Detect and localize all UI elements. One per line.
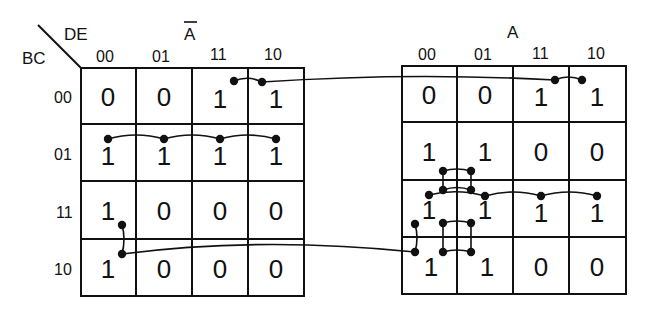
cell: 0	[213, 196, 227, 226]
cell: 0	[269, 254, 283, 284]
row-header: 00	[54, 89, 72, 106]
right-map-column-headers: 00 01 11 10	[418, 45, 605, 63]
cell: 0	[590, 137, 604, 167]
cell: 1	[590, 198, 604, 228]
group-dot	[230, 77, 238, 85]
cell: 1	[269, 84, 283, 114]
group-dot	[467, 167, 475, 175]
cell: 0	[157, 254, 171, 284]
group-dot	[481, 192, 489, 200]
group-dot	[593, 192, 601, 200]
cell: 1	[534, 198, 548, 228]
column-header: 10	[587, 45, 605, 62]
column-header: 00	[96, 48, 114, 65]
group-dot	[578, 76, 586, 84]
group-dot	[272, 135, 280, 143]
cell: 1	[101, 196, 115, 226]
cell: 0	[422, 80, 436, 110]
cell: 1	[213, 84, 227, 114]
group-dot	[439, 167, 447, 175]
group-dot	[411, 248, 419, 256]
group-dot	[118, 250, 126, 258]
connector-line	[262, 76, 555, 82]
group-dot	[411, 220, 419, 228]
cell: 1	[424, 252, 438, 282]
row-header: 01	[54, 146, 72, 163]
map-title-not-a: A	[184, 25, 196, 44]
cell: 0	[590, 252, 604, 282]
cell: 0	[534, 252, 548, 282]
row-variable-label: BC	[22, 49, 46, 68]
left-map-row-headers: 00 01 11 10	[54, 89, 73, 278]
cell: 0	[269, 196, 283, 226]
column-header: 11	[210, 46, 227, 63]
left-map-column-headers: 00 01 11 10	[96, 46, 282, 65]
row-header: 11	[56, 204, 73, 221]
karnaugh-map-diagram: DE BC A A 00 01 11 10 00 01 11 10 0 0 1 …	[0, 0, 653, 312]
cell: 1	[157, 141, 171, 171]
row-header: 10	[54, 261, 72, 278]
cell: 0	[534, 137, 548, 167]
group-dot	[216, 135, 224, 143]
cell: 1	[101, 141, 115, 171]
cell: 0	[157, 82, 171, 112]
group-dot	[425, 191, 433, 199]
group-dot	[104, 135, 112, 143]
group-dot	[551, 76, 559, 84]
column-header: 00	[418, 46, 436, 63]
cell: 1	[534, 82, 548, 112]
group-dot	[258, 78, 266, 86]
connector-line	[122, 244, 415, 254]
group-dot	[439, 186, 447, 194]
cell: 1	[101, 254, 115, 284]
cell: 1	[422, 195, 436, 225]
group-dot	[439, 219, 447, 227]
group-dot	[467, 248, 475, 256]
column-header: 11	[532, 45, 549, 62]
cell: 0	[101, 82, 115, 112]
group-dot	[537, 192, 545, 200]
grouping-connectors	[108, 76, 597, 254]
cell: 0	[478, 80, 492, 110]
column-header: 10	[264, 46, 282, 63]
cell: 1	[269, 141, 283, 171]
cell: 1	[478, 137, 492, 167]
group-dot	[467, 186, 475, 194]
group-dot	[118, 221, 126, 229]
cell: 1	[213, 141, 227, 171]
grouping-dots	[104, 76, 601, 258]
cell: 0	[157, 196, 171, 226]
group-dot	[467, 219, 475, 227]
cell: 1	[480, 252, 494, 282]
cell: 1	[590, 82, 604, 112]
cell: 0	[213, 254, 227, 284]
column-variable-label: DE	[64, 25, 88, 44]
map-title-a: A	[507, 23, 519, 42]
cell: 1	[422, 137, 436, 167]
column-header: 01	[474, 46, 492, 63]
group-dot	[160, 135, 168, 143]
column-header: 01	[152, 48, 170, 65]
group-dot	[439, 248, 447, 256]
